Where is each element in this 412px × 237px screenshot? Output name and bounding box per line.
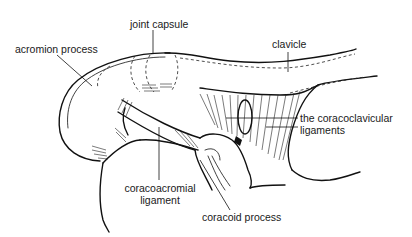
- label-clavicle: clavicle: [272, 38, 306, 50]
- scapula-outline: [292, 170, 360, 180]
- label-coracoacromial-line1: coracoacromial: [120, 182, 200, 194]
- label-coracoclavicular-line2: ligaments: [300, 124, 345, 136]
- label-coracoid-process: coracoid process: [202, 211, 281, 223]
- label-coracoacromial-line2: ligament: [120, 194, 200, 206]
- leader-coracoid: [200, 160, 230, 210]
- label-coracoclavicular-line1: the coracoclavicular: [300, 112, 393, 124]
- acromion-outline: [59, 53, 170, 161]
- humeral-head-outline: [100, 163, 109, 232]
- label-acromion-process: acromion process: [15, 43, 98, 55]
- label-joint-capsule: joint capsule: [130, 18, 188, 30]
- leader-acromion: [57, 55, 92, 86]
- clavicle-upper-outline: [165, 49, 356, 62]
- clavicle-lower-outline: [200, 76, 377, 95]
- acromioclavicular-joint-diagram: joint capsule acromion process clavicle …: [0, 0, 412, 237]
- ligament-junction: [234, 136, 242, 146]
- coracoacromial-ligament-outline: [122, 100, 200, 138]
